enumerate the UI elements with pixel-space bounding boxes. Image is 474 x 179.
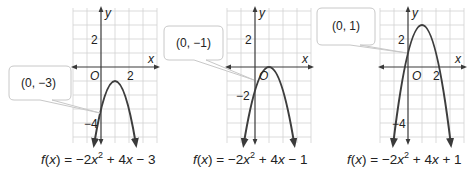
caption-eq: = −2 <box>213 152 244 167</box>
caption-var: x <box>49 152 56 167</box>
x-axis-label-2: x <box>301 52 309 66</box>
origin-label-1: O <box>90 69 99 83</box>
caption-tail: − 1 <box>285 152 308 167</box>
callout-3 <box>317 8 407 53</box>
origin-label-3: O <box>412 69 421 83</box>
function-caption-2: f(x) = −2x2 + 4x − 1 <box>193 150 308 167</box>
caption-mid: + 4 <box>409 152 432 167</box>
callout-text-3: (0, 1) <box>332 19 360 33</box>
caption-var: x <box>355 152 362 167</box>
y-tick-label-1b: −4 <box>84 117 98 131</box>
caption-fn: f <box>41 152 45 167</box>
y-axis-label-2: y <box>258 6 266 20</box>
graph-2 <box>164 8 311 143</box>
callout-text-1: (0, −3) <box>21 76 56 90</box>
x-axis-label-3: x <box>454 52 462 66</box>
caption-x1: x <box>432 152 439 167</box>
x-tick-label-3: 2 <box>433 69 440 83</box>
caption-tail: + 1 <box>439 152 462 167</box>
x-tick-label-1: 2 <box>127 69 134 83</box>
caption-fn: f <box>347 152 351 167</box>
y-tick-label-2b: −2 <box>236 89 250 103</box>
caption-tail: − 3 <box>133 152 156 167</box>
y-axis-label-1: y <box>104 6 112 20</box>
caption-fn: f <box>193 152 197 167</box>
caption-var: x <box>201 152 208 167</box>
callout-text-2: (0, −1) <box>176 36 211 50</box>
y-axis-label-3: y <box>411 6 419 20</box>
y-tick-label-3b: −4 <box>392 117 406 131</box>
caption-x1: x <box>126 152 133 167</box>
caption-x1: x <box>278 152 285 167</box>
caption-mid: + 4 <box>103 152 126 167</box>
function-caption-1: f(x) = −2x2 + 4x − 3 <box>41 150 156 167</box>
function-caption-3: f(x) = −2x2 + 4x + 1 <box>347 150 462 167</box>
caption-mid: + 4 <box>255 152 278 167</box>
origin-label-2: O <box>259 69 268 83</box>
caption-eq: = −2 <box>61 152 92 167</box>
y-tick-label-1a: 2 <box>91 33 98 47</box>
x-axis-label-1: x <box>147 52 155 66</box>
y-tick-label-2a: 2 <box>245 33 252 47</box>
y-tick-label-3a: 2 <box>398 33 405 47</box>
caption-eq: = −2 <box>367 152 398 167</box>
